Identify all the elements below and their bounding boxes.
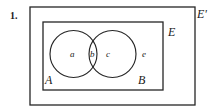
set-b-label: B [138, 74, 145, 86]
region-label-b: b [90, 50, 95, 59]
region-label-a: a [70, 50, 75, 59]
universal-set-outer-label: E' [197, 8, 207, 20]
region-label-c: c [106, 50, 110, 59]
region-label-e: e [142, 50, 146, 59]
venn-diagram-figure: 1. E' E A B a b c e [0, 0, 218, 112]
item-number-label: 1. [10, 11, 18, 21]
set-b-circle [89, 31, 136, 78]
universal-set-inner-label: E [168, 26, 175, 38]
set-a-label: A [45, 74, 52, 86]
